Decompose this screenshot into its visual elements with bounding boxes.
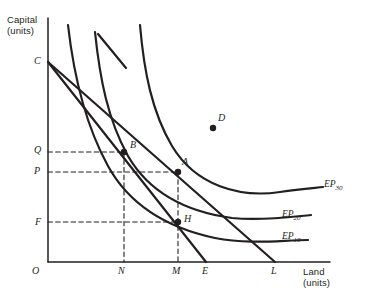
curve-label-EP10-text: EP [282, 231, 294, 241]
x-axis-title: Land (units) [303, 266, 330, 288]
x-tick-label-M: M [172, 265, 180, 276]
isocost-line-CL [48, 62, 275, 262]
tangent-stub-top [98, 34, 126, 68]
isoquant-EP20-curve [95, 32, 311, 219]
curve-label-EP20-text: EP [282, 209, 294, 219]
point-label-B: B [130, 139, 136, 150]
y-tick-label-C: C [34, 55, 41, 66]
diagram-svg [0, 0, 371, 300]
curve-label-EP30: EP30 [324, 179, 343, 192]
y-tick-label-P: P [34, 165, 40, 176]
curve-label-EP30-subscript: 30 [336, 184, 343, 192]
x-tick-label-E: E [202, 265, 208, 276]
curve-label-EP20: EP20 [282, 209, 301, 222]
curve-label-EP10-subscript: 10 [294, 236, 301, 244]
y-tick-label-Q: Q [34, 144, 41, 155]
point-marker-D [210, 125, 216, 131]
curve-label-EP20-subscript: 20 [294, 214, 301, 222]
curve-label-EP30-text: EP [324, 179, 336, 189]
x-tick-label-L: L [271, 265, 277, 276]
point-label-D: D [218, 112, 225, 123]
point-label-A: A [182, 156, 188, 167]
curve-label-EP10: EP10 [282, 231, 301, 244]
y-axis-title: Capital (units) [7, 14, 37, 36]
point-marker-B [121, 149, 127, 155]
point-marker-H [175, 219, 181, 225]
x-tick-label-N: N [118, 265, 125, 276]
origin-label-O: O [32, 265, 39, 276]
point-label-H: H [184, 213, 191, 224]
point-marker-A [175, 169, 181, 175]
figure-canvas: Capital (units) Land (units) C Q P F O N… [0, 0, 371, 300]
y-tick-label-F: F [35, 216, 41, 227]
